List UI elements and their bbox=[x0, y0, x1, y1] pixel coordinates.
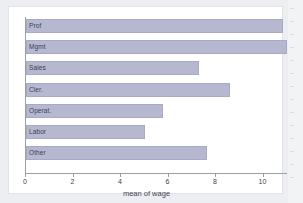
bar-category-label: Mgmt bbox=[29, 40, 46, 54]
ghost-text-line bbox=[290, 86, 294, 87]
bar-category-label: Other bbox=[29, 146, 46, 160]
x-axis-line bbox=[25, 173, 287, 174]
ghost-text-line bbox=[290, 99, 294, 100]
x-axis-tick-label: 4 bbox=[110, 178, 130, 185]
bar-category-label: Prof bbox=[29, 19, 41, 33]
ghost-text-line bbox=[290, 164, 294, 165]
x-axis-tick-label: 6 bbox=[158, 178, 178, 185]
figure: ProfMgmtSalesCler.Operat.LaborOther 0246… bbox=[0, 0, 303, 203]
bar-category-label: Cler. bbox=[29, 83, 43, 97]
ghost-text-line bbox=[290, 151, 294, 152]
page-edge-texture bbox=[288, 0, 303, 203]
x-axis-tick-label: 0 bbox=[15, 178, 35, 185]
ghost-text-line bbox=[290, 60, 294, 61]
bar bbox=[26, 83, 230, 97]
ghost-text-line bbox=[290, 125, 294, 126]
x-axis-tick-label: 2 bbox=[63, 178, 83, 185]
ghost-text-line bbox=[290, 34, 294, 35]
bar bbox=[26, 19, 283, 33]
ghost-text-line bbox=[290, 47, 294, 48]
x-axis-label: mean of wage bbox=[9, 189, 284, 198]
bar-category-label: Operat. bbox=[29, 104, 51, 118]
ghost-text-line bbox=[290, 21, 294, 22]
ghost-text-line bbox=[290, 138, 294, 139]
bar bbox=[26, 146, 207, 160]
x-axis-tick bbox=[263, 173, 264, 177]
x-axis-tick-label: 10 bbox=[253, 178, 273, 185]
x-axis-tick bbox=[215, 173, 216, 177]
x-axis-tick bbox=[120, 173, 121, 177]
x-axis-tick bbox=[25, 173, 26, 177]
x-axis-tick bbox=[73, 173, 74, 177]
bar-category-label: Sales bbox=[29, 61, 46, 75]
ghost-text-line bbox=[290, 177, 294, 178]
bar bbox=[26, 40, 287, 54]
ghost-text-line bbox=[290, 112, 294, 113]
plot-card: ProfMgmtSalesCler.Operat.LaborOther 0246… bbox=[8, 6, 283, 194]
ghost-text-line bbox=[290, 8, 294, 9]
ghost-text-line bbox=[290, 73, 294, 74]
x-axis-tick-label: 8 bbox=[205, 178, 225, 185]
x-axis-tick bbox=[168, 173, 169, 177]
bar-category-label: Labor bbox=[29, 125, 46, 139]
bar bbox=[26, 61, 199, 75]
